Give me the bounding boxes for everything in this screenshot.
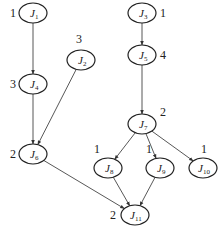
edge-j7-to-j8 bbox=[115, 133, 135, 159]
edge-j9-to-j11 bbox=[140, 177, 155, 205]
edge-j8-to-j11 bbox=[113, 177, 129, 205]
node-j8: J81 bbox=[94, 142, 122, 178]
edge-j7-to-j10 bbox=[152, 131, 193, 161]
node-weight-label: 2 bbox=[10, 147, 16, 161]
job-precedence-graph: J11J23J31J43J54J62J72J81J91J101J112 bbox=[0, 0, 221, 232]
node-weight-label: 3 bbox=[10, 77, 16, 91]
node-weight-label: 1 bbox=[94, 142, 100, 156]
node-j9: J91 bbox=[146, 142, 174, 178]
node-weight-label: 1 bbox=[201, 142, 207, 156]
node-j10: J101 bbox=[189, 142, 217, 178]
node-weight-label: 1 bbox=[10, 6, 16, 20]
node-j7: J72 bbox=[128, 105, 166, 134]
node-weight-label: 1 bbox=[146, 142, 152, 156]
node-j5: J54 bbox=[128, 45, 166, 65]
node-weight-label: 2 bbox=[110, 208, 116, 222]
node-j6: J62 bbox=[10, 144, 47, 164]
node-weight-label: 3 bbox=[76, 32, 82, 46]
edges-layer bbox=[33, 23, 193, 209]
node-weight-label: 2 bbox=[160, 105, 166, 119]
node-j4: J43 bbox=[10, 74, 47, 94]
node-j11: J112 bbox=[110, 205, 149, 225]
node-j1: J11 bbox=[10, 3, 47, 23]
node-weight-label: 1 bbox=[160, 6, 166, 20]
node-weight-label: 4 bbox=[160, 48, 166, 62]
nodes-layer: J11J23J31J43J54J62J72J81J91J101J112 bbox=[10, 3, 217, 225]
node-j2: J23 bbox=[67, 32, 95, 70]
node-j3: J31 bbox=[128, 3, 166, 23]
